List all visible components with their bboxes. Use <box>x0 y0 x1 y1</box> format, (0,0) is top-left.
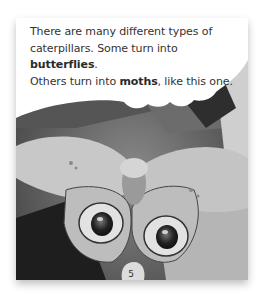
text-line-2: caterpillars. Some turn into butterflies… <box>30 41 240 74</box>
keyword-butterflies: butterflies <box>30 58 94 71</box>
body-text: There are many different types of caterp… <box>30 24 240 90</box>
book-page: There are many different types of caterp… <box>16 18 248 280</box>
text-line-3: Others turn into moths, like this one. <box>30 74 240 91</box>
text-span: Others turn into <box>30 75 119 88</box>
text-line-1: There are many different types of <box>30 24 240 41</box>
text-span: caterpillars. Some turn into <box>30 42 178 55</box>
text-span: . <box>94 58 97 71</box>
page-number: 5 <box>120 264 142 280</box>
text-span: , like this one. <box>158 75 233 88</box>
keyword-moths: moths <box>119 75 157 88</box>
